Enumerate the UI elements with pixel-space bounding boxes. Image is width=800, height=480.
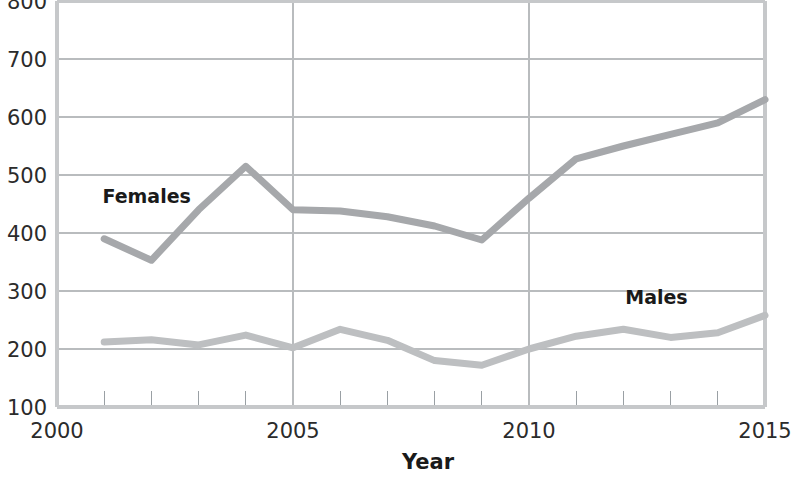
series-label-males: Males <box>625 286 687 308</box>
y-axis-tick-label: 700 <box>7 48 47 72</box>
series-line-males <box>104 315 765 365</box>
x-axis-tick-label: 2005 <box>266 419 319 443</box>
series-line-females <box>104 100 765 261</box>
x-axis-title: Year <box>401 450 455 474</box>
series-labels-group: FemalesMales <box>102 185 687 308</box>
y-axis-tick-label: 500 <box>7 164 47 188</box>
y-axis-tick-label: 800 <box>7 0 47 14</box>
y-axis-tick-label: 400 <box>7 222 47 246</box>
y-axis-tick-label: 100 <box>7 396 47 420</box>
line-chart: 100200300400500600700800 200020052010201… <box>0 0 800 480</box>
x-minor-ticks-group <box>104 391 718 407</box>
x-axis-tick-label: 2010 <box>502 419 555 443</box>
x-axis-tick-label: 2000 <box>30 419 83 443</box>
y-axis-tick-label: 200 <box>7 338 47 362</box>
y-axis-tick-label: 300 <box>7 280 47 304</box>
y-axis-tick-labels: 100200300400500600700800 <box>7 0 47 420</box>
chart-canvas: 100200300400500600700800 200020052010201… <box>0 0 800 480</box>
series-label-females: Females <box>102 185 190 207</box>
y-axis-tick-label: 600 <box>7 106 47 130</box>
x-axis-tick-labels: 2000200520102015 <box>30 419 791 443</box>
x-axis-tick-label: 2015 <box>738 419 791 443</box>
series-group <box>104 100 765 366</box>
